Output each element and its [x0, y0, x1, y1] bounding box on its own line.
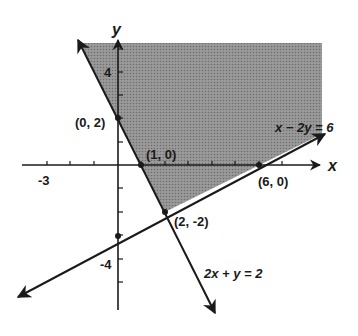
- inequality-graph: y x 4 -3 -4 (0, 2) (1, 0) (6, 0) (2, -2)…: [0, 0, 358, 336]
- label-point-6-0: (6, 0): [258, 174, 288, 189]
- x-axis-label: x: [327, 157, 338, 174]
- point-2-neg2: [162, 209, 168, 215]
- tick-label-x-neg3: -3: [38, 173, 50, 188]
- equation-label-1: x − 2y = 6: [274, 120, 334, 135]
- y-axis-label: y: [111, 21, 122, 38]
- point-0-2: [115, 115, 121, 121]
- point-6-0: [256, 162, 262, 168]
- point-1-0: [138, 162, 144, 168]
- tick-label-y-4: 4: [104, 65, 112, 80]
- label-point-1-0: (1, 0): [146, 147, 176, 162]
- point-0-neg3: [115, 233, 121, 239]
- label-point-0-2: (0, 2): [75, 115, 105, 130]
- tick-label-y-neg4: -4: [100, 257, 112, 272]
- label-point-2-neg2: (2, -2): [174, 214, 209, 229]
- equation-label-2: 2x + y = 2: [203, 266, 263, 281]
